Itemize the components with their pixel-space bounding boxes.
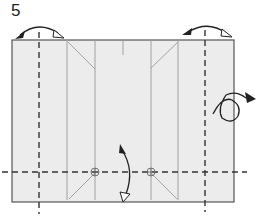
origami-diagram	[0, 0, 265, 219]
paper-sheet	[12, 40, 234, 202]
fold-right-edge-arrow	[182, 26, 232, 37]
